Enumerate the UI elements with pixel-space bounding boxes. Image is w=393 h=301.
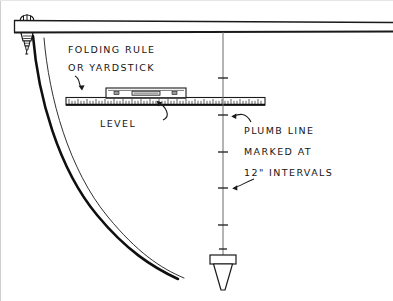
annotation-plumb-line-line2: MARKED AT xyxy=(244,147,312,157)
annotation-plumb-line-line1: PLUMB LINE xyxy=(244,126,314,136)
annotation-folding-rule-line2: OR YARDSTICK xyxy=(68,63,155,73)
folding-rule xyxy=(66,98,265,106)
leader-plumb-line-upper xyxy=(231,114,251,122)
plumb-bob xyxy=(210,255,236,290)
level-end-vial-left xyxy=(114,92,119,95)
annotation-level: LEVEL xyxy=(100,119,136,129)
annotation-plumb-line-line3: 12" INTERVALS xyxy=(244,168,333,178)
leader-plumb-line-lower xyxy=(232,179,254,191)
beam xyxy=(14,20,393,33)
annotation-folding-rule-line1: FOLDING RULE xyxy=(68,45,156,55)
diagram-canvas: FOLDING RULE OR YARDSTICK LEVEL PLUMB LI… xyxy=(0,0,393,301)
leader-folding-rule xyxy=(75,76,85,91)
plumb-line xyxy=(218,32,228,258)
spirit-level xyxy=(106,88,186,98)
diagram-illustration xyxy=(0,0,393,301)
level-end-vial-right xyxy=(172,92,177,95)
